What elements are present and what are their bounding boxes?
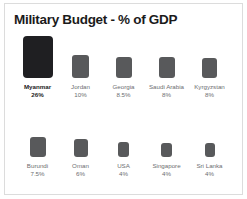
country-label: Jordan xyxy=(71,83,90,91)
square-slot xyxy=(72,34,89,78)
country-label: Oman xyxy=(72,162,89,170)
chart-item[interactable]: Singapore4% xyxy=(145,113,188,178)
value-square[interactable] xyxy=(72,55,89,78)
chart-card: Military Budget - % of GDP Myanmar26%Jor… xyxy=(4,3,243,195)
chart-item[interactable]: Myanmar26% xyxy=(16,34,59,99)
square-slot xyxy=(116,34,132,78)
value-square[interactable] xyxy=(161,143,172,157)
value-label: 6% xyxy=(76,170,85,178)
chart-row: Myanmar26%Jordan10%Georgia8.5%Saudi Arab… xyxy=(5,34,242,99)
chart-item[interactable]: USA4% xyxy=(102,113,145,178)
value-label: 10% xyxy=(74,91,86,99)
value-label: 4% xyxy=(119,170,128,178)
square-slot xyxy=(159,34,175,78)
value-square[interactable] xyxy=(202,58,217,78)
country-label: Sri Lanka xyxy=(196,162,222,170)
value-label: 8.5% xyxy=(116,91,130,99)
chart-item[interactable]: Burundi7.5% xyxy=(16,113,59,178)
value-square[interactable] xyxy=(159,57,175,78)
value-square[interactable] xyxy=(116,57,132,78)
country-label: Myanmar xyxy=(24,83,51,91)
chart-item[interactable]: Saudi Arabia8% xyxy=(145,34,188,99)
country-label: USA xyxy=(117,162,130,170)
square-slot xyxy=(30,113,46,157)
value-label: 4% xyxy=(205,170,214,178)
chart-row: Burundi7.5%Oman6%USA4%Singapore4%Sri Lan… xyxy=(5,113,242,178)
value-square[interactable] xyxy=(205,143,215,157)
square-slot xyxy=(74,113,88,157)
chart-item[interactable]: Sri Lanka4% xyxy=(188,113,231,178)
value-label: 4% xyxy=(162,170,171,178)
chart-item[interactable]: Georgia8.5% xyxy=(102,34,145,99)
chart-plot-area: Myanmar26%Jordan10%Georgia8.5%Saudi Arab… xyxy=(5,34,242,178)
value-square[interactable] xyxy=(30,137,46,157)
country-label: Burundi xyxy=(27,162,48,170)
chart-item[interactable]: Oman6% xyxy=(59,113,102,178)
chart-title: Military Budget - % of GDP xyxy=(14,12,177,27)
country-label: Singapore xyxy=(152,162,180,170)
value-label: 8% xyxy=(162,91,171,99)
value-square[interactable] xyxy=(23,36,53,78)
country-label: Saudi Arabia xyxy=(149,83,184,91)
square-slot xyxy=(161,113,172,157)
value-label: 26% xyxy=(31,91,43,99)
square-slot xyxy=(202,34,217,78)
square-slot xyxy=(118,113,129,157)
chart-item[interactable]: Jordan10% xyxy=(59,34,102,99)
chart-item[interactable]: Kyrgyzstan8% xyxy=(188,34,231,99)
value-square[interactable] xyxy=(74,139,88,157)
square-slot xyxy=(205,113,215,157)
country-label: Georgia xyxy=(112,83,134,91)
country-label: Kyrgyzstan xyxy=(194,83,225,91)
square-slot xyxy=(23,34,53,78)
value-label: 7.5% xyxy=(30,170,44,178)
value-label: 8% xyxy=(205,91,214,99)
value-square[interactable] xyxy=(118,142,129,157)
